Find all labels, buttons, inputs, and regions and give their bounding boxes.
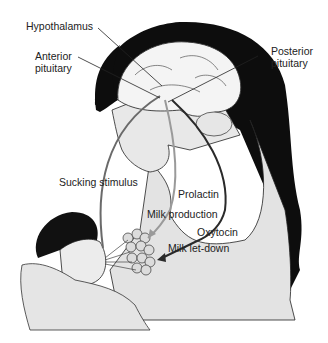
- label-oxytocin: Oxytocin: [197, 226, 238, 238]
- label-posterior-line1: Posterior: [271, 45, 313, 57]
- label-posterior-pituitary: Posterior pituitary: [271, 45, 313, 69]
- label-anterior-pituitary: Anterior pituitary: [35, 50, 72, 74]
- label-milk-let-down: Milk let-down: [168, 242, 229, 254]
- label-milk-production: Milk production: [147, 208, 218, 220]
- label-anterior-line2: pituitary: [35, 62, 72, 74]
- label-prolactin: Prolactin: [178, 188, 219, 200]
- lactation-diagram: Hypothalamus Anterior pituitary Posterio…: [0, 0, 328, 343]
- label-posterior-line2: pituitary: [271, 57, 313, 69]
- label-anterior-line1: Anterior: [35, 50, 72, 62]
- label-sucking-stimulus: Sucking stimulus: [59, 176, 138, 188]
- label-hypothalamus: Hypothalamus: [26, 20, 93, 32]
